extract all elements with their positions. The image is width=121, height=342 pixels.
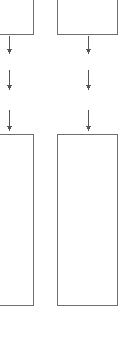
right-column-arrow-1-head-icon <box>86 49 91 55</box>
bottom-left-process-box[interactable] <box>0 135 34 306</box>
right-column-arrow-3[interactable] <box>86 110 91 131</box>
left-column-arrow-1[interactable] <box>7 36 12 54</box>
right-column-arrow-3-head-icon <box>86 126 91 132</box>
bottom-right-process-box[interactable] <box>58 135 118 306</box>
right-column-arrow-2[interactable] <box>86 70 91 90</box>
connectors-layer <box>7 36 91 131</box>
flowchart-svg <box>0 0 121 342</box>
diagram-canvas <box>0 0 121 342</box>
right-column-arrow-2-head-icon <box>86 85 91 91</box>
left-column-arrow-3[interactable] <box>7 110 12 131</box>
top-left-process-box[interactable] <box>0 0 34 35</box>
left-column-arrow-2[interactable] <box>7 70 12 90</box>
left-column-arrow-1-head-icon <box>7 49 12 55</box>
nodes-layer <box>0 0 118 306</box>
left-column-arrow-3-head-icon <box>7 126 12 132</box>
top-right-process-box[interactable] <box>58 0 118 35</box>
right-column-arrow-1[interactable] <box>86 36 91 54</box>
left-column-arrow-2-head-icon <box>7 85 12 91</box>
